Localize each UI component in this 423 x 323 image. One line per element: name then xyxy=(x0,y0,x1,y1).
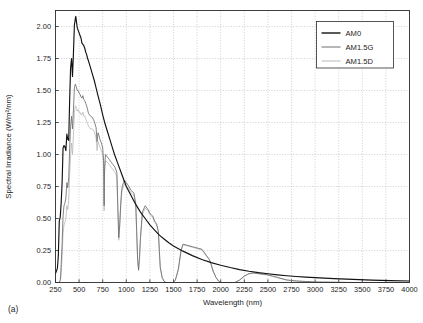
panel-label: (a) xyxy=(8,304,18,314)
x-axis-title: Wavelength (nm) xyxy=(203,298,262,307)
legend-label-am0: AM0 xyxy=(346,29,362,38)
x-tick-label: 3500 xyxy=(354,285,370,294)
legend-label-am1-5d: AM1.5D xyxy=(346,57,374,66)
y-tick-label: 1.00 xyxy=(37,150,51,159)
x-tick-label: 3000 xyxy=(307,285,323,294)
x-tick-label: 1750 xyxy=(189,285,205,294)
spectral-irradiance-chart: 2505007501000125015001750200022502500275… xyxy=(0,0,423,323)
y-tick-label: 0.75 xyxy=(37,182,51,191)
y-tick-label: 1.25 xyxy=(37,118,51,127)
x-tick-label: 1000 xyxy=(118,285,134,294)
x-tick-label: 4000 xyxy=(401,285,417,294)
x-tick-label: 500 xyxy=(73,285,85,294)
legend-label-am1-5g: AM1.5G xyxy=(346,43,374,52)
x-tick-label: 250 xyxy=(49,285,61,294)
y-tick-label: 0.50 xyxy=(37,214,51,223)
x-tick-label: 2000 xyxy=(212,285,228,294)
solar-spectrum-figure: 2505007501000125015001750200022502500275… xyxy=(0,0,423,323)
y-axis-tick-labels: 0.000.250.500.751.001.251.501.752.00 xyxy=(37,22,51,287)
x-tick-label: 1250 xyxy=(142,285,158,294)
y-tick-label: 2.00 xyxy=(37,22,51,31)
x-tick-label: 2250 xyxy=(236,285,252,294)
y-tick-label: 0.00 xyxy=(37,278,51,287)
x-tick-label: 2500 xyxy=(260,285,276,294)
x-tick-label: 1500 xyxy=(165,285,181,294)
x-tick-label: 3250 xyxy=(330,285,346,294)
y-tick-label: 0.25 xyxy=(37,246,51,255)
y-tick-label: 1.75 xyxy=(37,54,51,63)
chart-legend: AM0AM1.5GAM1.5D xyxy=(317,22,394,69)
x-tick-label: 3750 xyxy=(378,285,394,294)
y-axis-title: Spectral Irradiance (W/m²/nm) xyxy=(4,94,13,199)
x-tick-label: 2750 xyxy=(283,285,299,294)
x-tick-label: 750 xyxy=(97,285,109,294)
y-tick-label: 1.50 xyxy=(37,86,51,95)
